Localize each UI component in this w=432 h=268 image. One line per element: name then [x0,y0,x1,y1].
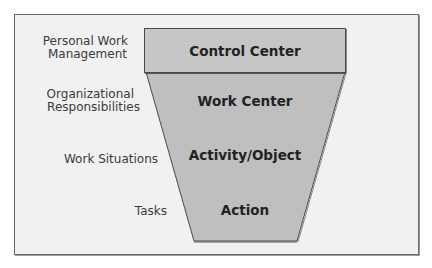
level-control-center: Control Center [145,43,345,59]
category-work-situations: Work Situations [20,153,158,166]
level-work-center: Work Center [145,93,345,109]
level-activity-object: Activity/Object [145,147,345,163]
category-personal-work-management: Personal Work Management [20,35,128,61]
category-line: Responsibilities [20,101,140,114]
category-line: Management [20,48,128,61]
level-action: Action [145,202,345,218]
category-organizational-responsibilities: Organizational Responsibilities [20,88,140,114]
